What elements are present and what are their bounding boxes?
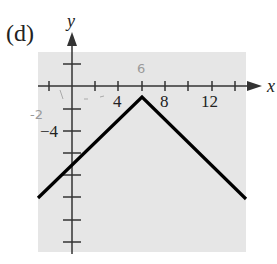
x-tick-label-8: 8: [160, 92, 169, 111]
graph-figure: x y 4 8 12 −4 6 -2: [0, 0, 277, 264]
handwritten-neg2: -2: [30, 107, 43, 122]
y-tick-label-neg4: −4: [40, 122, 59, 141]
handwritten-6: 6: [137, 61, 145, 76]
x-tick-label-12: 12: [201, 92, 218, 111]
x-tick-label-4: 4: [113, 92, 122, 111]
y-axis-label: y: [65, 11, 75, 31]
y-axis-arrow-icon: [67, 32, 77, 46]
x-axis-label: x: [266, 76, 275, 96]
x-axis-arrow-icon: [247, 81, 262, 91]
